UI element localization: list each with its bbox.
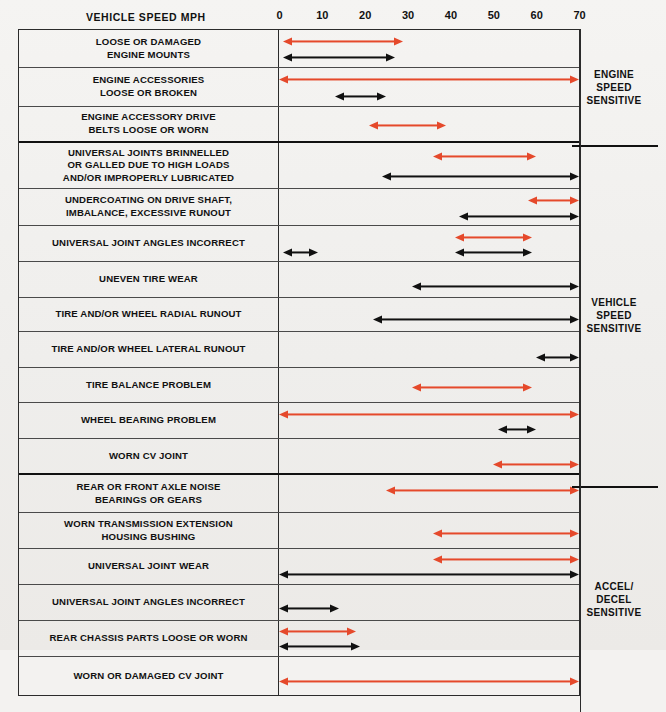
symptom-label-wheel-bearing-problem: WHEEL BEARING PROBLEM xyxy=(19,403,279,438)
axis-tick-70: 70 xyxy=(573,9,585,21)
range-arrow-black xyxy=(335,92,386,101)
range-arrow-red xyxy=(412,383,532,392)
arrow-head-right-icon xyxy=(523,383,532,391)
category-engine-speed-sensitive: ENGINESPEEDSENSITIVE xyxy=(580,29,648,145)
symptom-label-rear-or-front-axle-noise: REAR OR FRONT AXLE NOISEBEARINGS OR GEAR… xyxy=(19,475,279,512)
symptom-label-line: WORN TRANSMISSION EXTENSION xyxy=(64,518,233,531)
arrow-head-right-icon xyxy=(570,172,579,180)
speed-range-plot xyxy=(279,549,579,584)
symptom-label-line: LOOSE OR DAMAGED xyxy=(96,36,201,49)
arrow-head-right-icon xyxy=(377,92,386,100)
speed-range-plot xyxy=(279,475,579,512)
arrow-head-right-icon xyxy=(523,248,532,256)
range-arrow-black xyxy=(373,315,579,324)
category-label-line: SPEED xyxy=(587,81,642,94)
arrow-head-right-icon xyxy=(347,627,356,635)
category-label-line: SPEED xyxy=(587,309,642,322)
table-row: WORN TRANSMISSION EXTENSIONHOUSING BUSHI… xyxy=(19,513,579,549)
range-arrow-black xyxy=(498,425,537,434)
symptom-label-line: TIRE BALANCE PROBLEM xyxy=(86,379,211,392)
arrow-head-right-icon xyxy=(570,460,579,468)
speed-range-plot xyxy=(279,30,579,67)
speed-range-plot xyxy=(279,439,579,473)
axis-tick-20: 20 xyxy=(359,9,371,21)
range-arrow-red xyxy=(433,152,536,161)
range-arrow-red xyxy=(283,37,403,46)
symptom-label-uneven-tire-wear: UNEVEN TIRE WEAR xyxy=(19,262,279,297)
table-row: UNIVERSAL JOINT ANGLES INCORRECT xyxy=(19,585,579,621)
axis-tick-0: 0 xyxy=(276,9,282,21)
range-arrow-black xyxy=(455,248,532,257)
category-label-line: SENSITIVE xyxy=(587,322,642,335)
speed-range-plot xyxy=(279,262,579,297)
arrow-head-right-icon xyxy=(527,425,536,433)
axis-tick-60: 60 xyxy=(531,9,543,21)
arrow-head-right-icon xyxy=(570,570,579,578)
category-label-line: DECEL xyxy=(587,593,642,606)
category-label-line: ACCEL/ xyxy=(587,580,642,593)
arrow-shaft xyxy=(418,285,573,287)
table-row: WHEEL BEARING PROBLEM xyxy=(19,403,579,439)
symptom-label-engine-accessories-loose-or-broken: ENGINE ACCESSORIESLOOSE OR BROKEN xyxy=(19,68,279,106)
arrow-shaft xyxy=(392,489,573,491)
range-arrow-black xyxy=(279,642,360,651)
symptom-label-line: IMBALANCE, EXCESSIVE RUNOUT xyxy=(66,207,231,220)
symptom-table: LOOSE OR DAMAGEDENGINE MOUNTSENGINE ACCE… xyxy=(18,29,580,696)
symptom-label-line: UNIVERSAL JOINT ANGLES INCORRECT xyxy=(52,237,245,250)
arrow-shaft xyxy=(439,532,573,534)
axis-tick-40: 40 xyxy=(445,9,457,21)
arrow-shaft xyxy=(285,573,573,575)
arrow-shaft xyxy=(285,78,573,80)
symptom-label-line: OR GALLED DUE TO HIGH LOADS xyxy=(67,159,229,172)
axis-tick-50: 50 xyxy=(488,9,500,21)
range-arrow-black xyxy=(382,172,579,181)
speed-range-plot xyxy=(279,107,579,141)
arrow-head-right-icon xyxy=(570,353,579,361)
arrow-shaft xyxy=(289,40,397,42)
speed-range-plot xyxy=(279,143,579,188)
arrow-shaft xyxy=(289,56,388,58)
symptom-label-line: UNIVERSAL JOINTS BRINNELLED xyxy=(68,147,229,160)
arrow-shaft xyxy=(388,175,573,177)
symptom-label-rear-chassis-parts-loose-or-worn: REAR CHASSIS PARTS LOOSE OR WORN xyxy=(19,621,279,656)
range-arrow-red xyxy=(493,460,579,469)
symptom-label-worn-or-damaged-cv-joint: WORN OR DAMAGED CV JOINT xyxy=(19,657,279,695)
speed-range-plot xyxy=(279,68,579,106)
symptom-label-line: UNEVEN TIRE WEAR xyxy=(99,273,198,286)
arrow-shaft xyxy=(418,386,526,388)
category-label-line: ENGINE xyxy=(587,68,642,81)
category-label-line: SENSITIVE xyxy=(587,606,642,619)
arrow-head-right-icon xyxy=(437,121,446,129)
speed-range-plot xyxy=(279,403,579,438)
range-arrow-red xyxy=(279,410,579,419)
symptom-label-line: WHEEL BEARING PROBLEM xyxy=(81,414,216,427)
symptom-label-line: BELTS LOOSE OR WORN xyxy=(89,124,209,137)
symptom-label-engine-accessory-drive-belts: ENGINE ACCESSORY DRIVEBELTS LOOSE OR WOR… xyxy=(19,107,279,141)
arrow-shaft xyxy=(285,607,333,609)
symptom-label-undercoating-on-drive-shaft: UNDERCOATING ON DRIVE SHAFT,IMBALANCE, E… xyxy=(19,189,279,225)
table-row: LOOSE OR DAMAGEDENGINE MOUNTS xyxy=(19,30,579,68)
axis-title: VEHICLE SPEED MPH xyxy=(86,11,206,23)
table-row: REAR OR FRONT AXLE NOISEBEARINGS OR GEAR… xyxy=(19,475,579,513)
range-arrow-red xyxy=(386,486,579,495)
symptom-label-universal-joint-wear: UNIVERSAL JOINT WEAR xyxy=(19,549,279,584)
range-arrow-red xyxy=(279,627,356,636)
arrow-shaft xyxy=(341,95,380,97)
arrow-head-right-icon xyxy=(570,410,579,418)
range-arrow-black xyxy=(459,212,579,221)
table-row: REAR CHASSIS PARTS LOOSE OR WORN xyxy=(19,621,579,657)
range-arrow-red xyxy=(279,75,579,84)
arrow-shaft xyxy=(534,199,573,201)
arrow-shaft xyxy=(542,356,573,358)
table-row: ENGINE ACCESSORIESLOOSE OR BROKEN xyxy=(19,68,579,107)
range-arrow-black xyxy=(283,53,394,62)
table-row: TIRE AND/OR WHEEL RADIAL RUNOUT xyxy=(19,298,579,332)
speed-range-plot xyxy=(279,657,579,695)
arrow-shaft xyxy=(285,645,354,647)
arrow-head-right-icon xyxy=(570,75,579,83)
arrow-head-right-icon xyxy=(570,529,579,537)
arrow-shaft xyxy=(439,155,530,157)
symptom-label-line: ENGINE MOUNTS xyxy=(107,49,190,62)
category-label-line: VEHICLE xyxy=(587,296,642,309)
symptom-label-tire-wheel-radial-runout: TIRE AND/OR WHEEL RADIAL RUNOUT xyxy=(19,298,279,331)
